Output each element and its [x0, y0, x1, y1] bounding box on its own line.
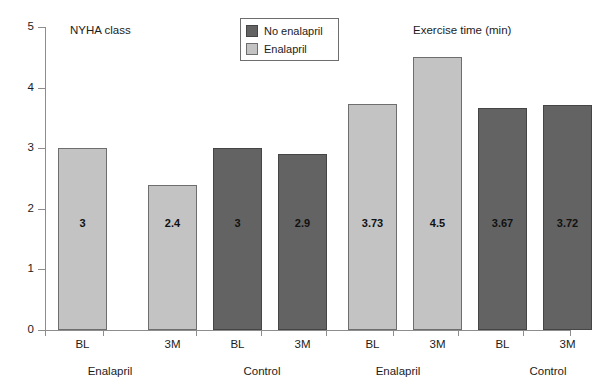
bar [213, 148, 262, 330]
y-axis-tick-label: 0 [20, 324, 34, 336]
bar [58, 148, 107, 330]
y-axis-tick [38, 269, 46, 270]
bar-value-label: 2.9 [278, 218, 327, 229]
legend-swatch-icon-no-enalapril [246, 25, 258, 37]
y-axis-tick [38, 148, 46, 149]
x-axis-tick [523, 330, 524, 336]
x-axis-line [45, 330, 571, 331]
x-axis-group-label: Control [222, 366, 302, 378]
x-axis-tick [45, 330, 46, 336]
legend-label-no-enalapril: No enalapril [264, 26, 323, 37]
x-axis-tick [261, 330, 262, 336]
bar [413, 57, 462, 330]
bar-value-label: 4.5 [413, 218, 462, 229]
x-axis-tick [103, 330, 104, 336]
legend-item-enalapril: Enalapril [246, 41, 333, 57]
x-axis-tick [196, 330, 197, 336]
legend: No enalapril Enalapril [240, 18, 339, 61]
x-axis-category-label: BL [58, 339, 107, 351]
x-axis-category-label: 3M [278, 339, 327, 351]
x-axis-group-label: Enalapril [70, 366, 150, 378]
legend-swatch-icon-enalapril [246, 43, 258, 55]
x-axis-category-label: 3M [413, 339, 462, 351]
y-axis-tick [38, 209, 46, 210]
x-axis-category-label: 3M [543, 339, 592, 351]
y-axis-tick [38, 88, 46, 89]
bar-value-label: 3.72 [543, 218, 592, 229]
y-axis-tick-label: 4 [20, 82, 34, 94]
bar-value-label: 3 [58, 218, 107, 229]
panel-title-nyha: NYHA class [70, 25, 131, 37]
x-axis-tick [570, 330, 571, 336]
bar-value-label: 3 [213, 218, 262, 229]
x-axis-category-label: 3M [148, 339, 197, 351]
x-axis-tick [458, 330, 459, 336]
chart-container: 012345 NYHA class Exercise time (min) No… [0, 0, 602, 388]
bar-value-label: 2.4 [148, 218, 197, 229]
x-axis-category-label: BL [213, 339, 262, 351]
y-axis-tick-label: 1 [20, 263, 34, 275]
bar-value-label: 3.73 [348, 218, 397, 229]
legend-label-enalapril: Enalapril [264, 44, 307, 55]
y-axis-tick-label: 3 [20, 142, 34, 154]
y-axis-tick-label: 2 [20, 203, 34, 215]
y-axis-tick [38, 27, 46, 28]
y-axis-line [45, 27, 46, 331]
bar-value-label: 3.67 [478, 218, 527, 229]
panel-title-exercise: Exercise time (min) [413, 25, 511, 37]
x-axis-category-label: BL [348, 339, 397, 351]
bar [148, 185, 197, 330]
x-axis-group-label: Enalapril [358, 366, 438, 378]
x-axis-tick [326, 330, 327, 336]
y-axis-tick-label: 5 [20, 21, 34, 33]
bar [278, 154, 327, 330]
x-axis-category-label: BL [478, 339, 527, 351]
x-axis-group-label: Control [508, 366, 588, 378]
legend-item-no-enalapril: No enalapril [246, 23, 333, 39]
x-axis-tick [393, 330, 394, 336]
